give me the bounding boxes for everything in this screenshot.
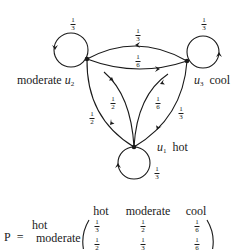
edge-hot-to-cool	[134, 74, 168, 147]
arrowhead-icon	[155, 66, 160, 72]
node-hot	[132, 145, 137, 150]
prob-moderate-to-hot: 12	[90, 111, 95, 125]
matrix-col-hot: hot	[93, 204, 108, 219]
loop-hot	[118, 147, 150, 179]
matrix-right-paren	[207, 220, 213, 249]
prob-hot-to-moderate: 12	[111, 96, 116, 110]
label-moderate: moderate u2	[17, 73, 74, 88]
prob-hot-to-cool: 16	[156, 96, 161, 110]
prob-moderate-to-cool: 16	[136, 54, 141, 68]
prob-moderate-self: 13	[71, 17, 76, 31]
matrix-cell-moderate-moderate: 13	[141, 237, 146, 251]
arrowhead-icon	[115, 163, 121, 168]
prob-cool-to-moderate: 13	[136, 28, 141, 42]
matrix-col-moderate: moderate	[126, 204, 171, 219]
label-hot: u1 hot	[157, 140, 188, 155]
loop-moderate	[54, 33, 88, 67]
matrix-cell-moderate-cool: 16	[195, 237, 200, 251]
matrix-cell-hot-moderate: 12	[141, 219, 146, 233]
node-cool	[185, 59, 190, 64]
prob-cool-to-hot: 13	[179, 106, 184, 120]
matrix-left-paren	[83, 220, 89, 249]
matrix-cell-hot-hot: 13	[95, 219, 100, 233]
arrowhead-icon	[155, 123, 162, 130]
edge-cool-to-hot	[134, 61, 187, 147]
matrix-col-cool: cool	[186, 204, 207, 219]
matrix-row-moderate: moderate	[36, 231, 81, 246]
prob-cool-self: 13	[202, 17, 207, 31]
matrix-cell-hot-cool: 16	[195, 219, 200, 233]
node-moderate	[85, 57, 90, 62]
prob-hot-self: 13	[155, 166, 160, 180]
matrix-cell-moderate-hot: 12	[95, 237, 100, 251]
matrix-label: P =	[4, 230, 23, 245]
arrowhead-icon	[216, 52, 222, 57]
arrowhead-icon	[135, 42, 140, 48]
arrowhead-icon	[110, 119, 115, 125]
loop-cool	[187, 36, 219, 68]
label-cool: u3 cool	[194, 73, 230, 88]
